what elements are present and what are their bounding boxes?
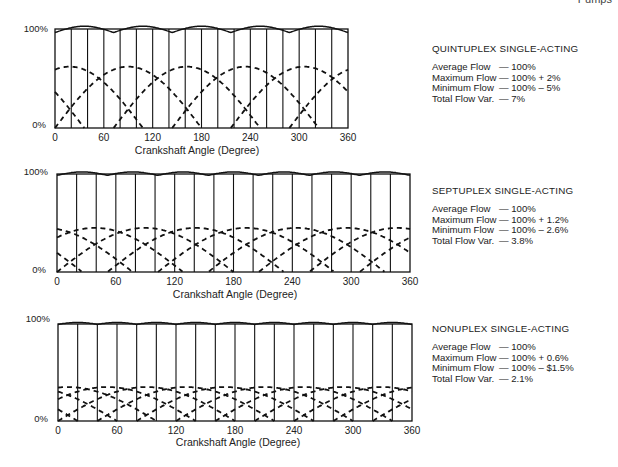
stat-value: — 100% <box>499 342 536 353</box>
x-tick-label: 240 <box>286 425 303 436</box>
x-tick-label: 360 <box>404 425 421 436</box>
stat-label: Average Flow <box>432 342 499 353</box>
x-tick-label: 60 <box>111 425 122 436</box>
y-tick-100: 100% <box>2 313 50 324</box>
stat-value: — 2.1% <box>499 374 533 385</box>
chart-title: NONUPLEX SINGLE-ACTING <box>432 324 574 335</box>
nonuplex-plot <box>0 0 618 467</box>
x-tick-label: 0 <box>55 425 61 436</box>
x-tick-label: 180 <box>227 425 244 436</box>
stat-row: Average Flow— 100% <box>432 342 574 353</box>
y-tick-0: 0% <box>0 413 48 424</box>
stat-row: Total Flow Var.— 2.1% <box>432 374 574 385</box>
nonuplex-stats: NONUPLEX SINGLE-ACTING Average Flow— 100… <box>432 324 574 385</box>
x-axis-label: Crankshaft Angle (Degree) <box>176 436 300 448</box>
x-tick-label: 120 <box>168 425 185 436</box>
x-tick-label: 300 <box>345 425 362 436</box>
plot-area <box>58 323 412 422</box>
nonuplex-panel: 100% 0% 060120180240300360 Crankshaft An… <box>0 0 618 467</box>
stat-label: Total Flow Var. <box>432 374 499 385</box>
